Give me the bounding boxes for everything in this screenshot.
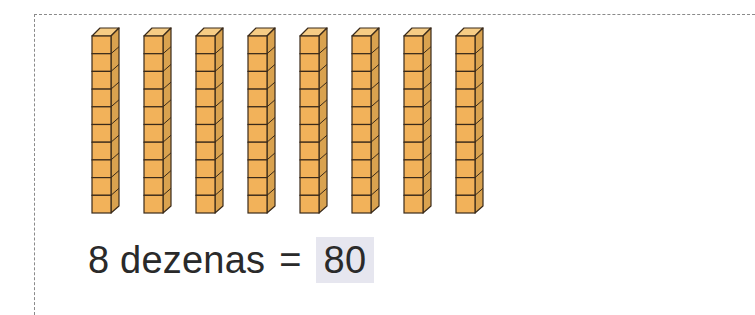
ten-rod-4	[247, 27, 277, 215]
ten-rod-1	[91, 27, 121, 215]
equals-sign: =	[279, 239, 301, 282]
answer-value: 80	[324, 239, 367, 282]
ten-rod-6	[351, 27, 381, 215]
ten-rod-7	[403, 27, 433, 215]
equation-left-text: 8 dezenas	[88, 239, 265, 282]
answer-box: 80	[316, 237, 375, 283]
ten-rod-3	[195, 27, 225, 215]
ten-rod-2	[143, 27, 173, 215]
ten-rod-8	[455, 27, 485, 215]
equation: 8 dezenas = 80	[88, 236, 374, 284]
ten-rod-5	[299, 27, 329, 215]
